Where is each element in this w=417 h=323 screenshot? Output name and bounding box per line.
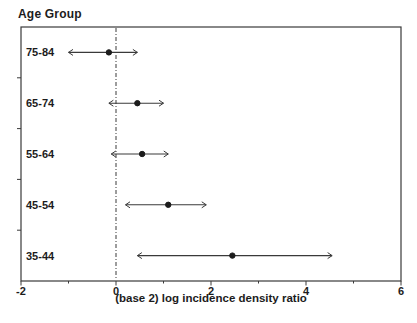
plot-border xyxy=(21,27,401,281)
point-marker xyxy=(166,202,171,207)
category-label: 35-44 xyxy=(26,250,55,262)
point-marker xyxy=(139,151,144,156)
category-label: 45-54 xyxy=(26,199,55,211)
category-label: 75-84 xyxy=(26,46,55,58)
x-axis-title: (base 2) log incidence density ratio xyxy=(21,292,401,304)
point-marker xyxy=(106,50,111,55)
forest-plot-figure: Age Group -2024675-8465-7455-6445-5435-4… xyxy=(0,0,417,323)
point-marker xyxy=(135,101,140,106)
category-label: 55-64 xyxy=(26,148,55,160)
category-label: 65-74 xyxy=(26,97,55,109)
point-marker xyxy=(230,253,235,258)
plot-canvas: -2024675-8465-7455-6445-5435-44 xyxy=(0,0,417,323)
